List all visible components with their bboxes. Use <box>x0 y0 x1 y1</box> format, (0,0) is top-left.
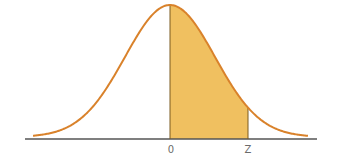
zero-tick-label: 0 <box>168 144 174 155</box>
z-tick-label: Z <box>245 144 252 155</box>
normal-curve-chart <box>0 0 339 166</box>
shaded-area <box>170 5 248 139</box>
